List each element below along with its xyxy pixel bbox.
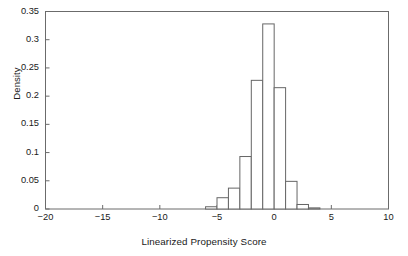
y-axis-title: Density — [11, 44, 22, 124]
x-axis-tick-labels: −20−15−10−50510 — [0, 0, 408, 256]
x-axis-title: Linearized Propensity Score — [0, 236, 408, 247]
x-tick-label: 10 — [369, 213, 408, 222]
x-tick-label: 5 — [311, 213, 351, 222]
x-tick-label: −10 — [140, 213, 180, 222]
x-tick-label: 0 — [254, 213, 294, 222]
x-tick-label: −20 — [26, 213, 66, 222]
x-tick-label: −15 — [83, 213, 123, 222]
x-tick-label: −5 — [197, 213, 237, 222]
chart-figure: 00.050.10.150.20.250.30.35 −20−15−10−505… — [0, 0, 408, 256]
